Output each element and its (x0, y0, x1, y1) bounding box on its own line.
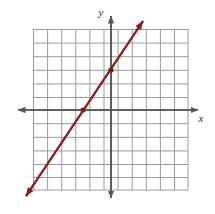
y-axis-label: y (98, 6, 104, 18)
x-intercept-point (80, 107, 85, 112)
y-intercept-point (108, 67, 113, 72)
coordinate-plane-figure: y x (0, 0, 215, 214)
coordinate-plane-svg: y x (0, 0, 215, 214)
plotted-line-group (26, 21, 143, 196)
x-axis-label: x (198, 112, 204, 124)
